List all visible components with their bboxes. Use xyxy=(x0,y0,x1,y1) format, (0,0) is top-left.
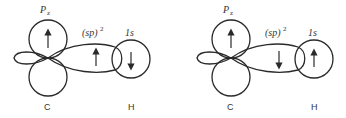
sp-label: (sp) xyxy=(265,27,281,39)
1s-label: 1s xyxy=(308,27,317,38)
carbon-label: C xyxy=(44,102,51,112)
sp-orbital-small-lobe xyxy=(197,52,231,64)
sp-orbital-small-lobe xyxy=(14,52,48,64)
panel-left: P z (sp) 2 1s C H xyxy=(14,4,150,112)
pz-label: P xyxy=(39,4,46,15)
1s-label: 1s xyxy=(125,27,134,38)
pz-subscript: z xyxy=(230,9,233,17)
panel-right: P z (sp) 2 1s C H xyxy=(197,4,333,112)
pz-label: P xyxy=(222,4,229,15)
sp-label: (sp) xyxy=(82,27,98,39)
hydrogen-label: H xyxy=(311,102,318,112)
pz-subscript: z xyxy=(47,9,50,17)
sp-superscript: 2 xyxy=(283,25,287,33)
orbital-diagram: P z (sp) 2 1s C H P z (sp) 2 1s C H xyxy=(0,0,346,118)
sp-superscript: 2 xyxy=(100,25,104,33)
carbon-label: C xyxy=(227,102,234,112)
hydrogen-label: H xyxy=(128,102,135,112)
sp-orbital-large-lobe xyxy=(231,44,305,72)
sp-orbital-large-lobe xyxy=(48,44,122,72)
